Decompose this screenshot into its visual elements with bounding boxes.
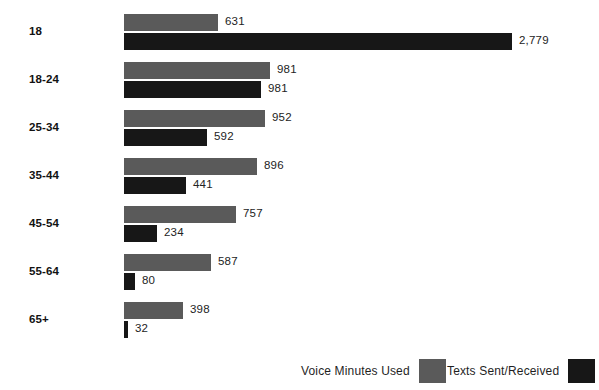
bar-texts[interactable]	[124, 225, 157, 242]
bar-line-texts: 592	[124, 129, 599, 146]
category-label: 45-54	[29, 217, 59, 229]
bar-row-group: 25-34952592	[0, 108, 599, 156]
bar-texts[interactable]	[124, 33, 512, 50]
bar-texts[interactable]	[124, 129, 207, 146]
bar-row-group: 186312,779	[0, 12, 599, 60]
bar-voice[interactable]	[124, 14, 218, 31]
bar-voice[interactable]	[124, 206, 236, 223]
bar-value-label-voice: 398	[190, 303, 210, 315]
bar-value-label-voice: 757	[243, 207, 263, 219]
bar-line-voice: 587	[124, 254, 599, 271]
bar-line-voice: 981	[124, 62, 599, 79]
category-label: 55-64	[29, 265, 59, 277]
bar-row-group: 45-54757234	[0, 204, 599, 252]
bar-voice[interactable]	[124, 62, 270, 79]
bar-voice[interactable]	[124, 110, 265, 127]
bar-line-texts: 2,779	[124, 33, 599, 50]
bar-voice[interactable]	[124, 254, 211, 271]
bar-value-label-voice: 981	[277, 63, 297, 75]
bar-line-voice: 952	[124, 110, 599, 127]
bar-line-texts: 234	[124, 225, 599, 242]
bar-row-group: 65+39832	[0, 300, 599, 348]
bar-line-voice: 757	[124, 206, 599, 223]
bar-value-label-texts: 981	[268, 82, 288, 94]
bar-value-label-texts: 32	[135, 322, 148, 334]
grouped-bar-chart: 186312,77918-2498198125-3495259235-44896…	[0, 0, 599, 390]
legend-label-voice-minutes-used: Voice Minutes Used	[301, 364, 410, 378]
bar-texts[interactable]	[124, 81, 261, 98]
bar-line-texts: 441	[124, 177, 599, 194]
legend-item-voice-minutes-used: Voice Minutes Used	[301, 358, 446, 384]
legend-label-texts-sent-received: Texts Sent/Received	[447, 364, 559, 378]
bar-line-texts: 32	[124, 321, 599, 338]
bar-line-voice: 398	[124, 302, 599, 319]
legend-swatch-texts-sent-received	[568, 359, 595, 383]
category-label: 18	[29, 25, 42, 37]
chart-legend: Voice Minutes Used Texts Sent/Received	[0, 352, 599, 390]
bar-value-label-texts: 592	[214, 130, 234, 142]
category-label: 25-34	[29, 121, 59, 133]
bar-value-label-texts: 441	[193, 178, 213, 190]
category-label: 18-24	[29, 73, 59, 85]
bar-voice[interactable]	[124, 302, 183, 319]
bar-value-label-voice: 587	[218, 255, 238, 267]
bar-texts[interactable]	[124, 321, 128, 338]
bar-row-group: 18-24981981	[0, 60, 599, 108]
bar-line-texts: 80	[124, 273, 599, 290]
category-label: 65+	[29, 313, 49, 325]
bar-value-label-voice: 896	[264, 159, 284, 171]
bar-line-texts: 981	[124, 81, 599, 98]
bar-row-group: 55-6458780	[0, 252, 599, 300]
bar-line-voice: 631	[124, 14, 599, 31]
bar-value-label-voice: 952	[272, 111, 292, 123]
bar-value-label-texts: 80	[142, 274, 155, 286]
bar-value-label-voice: 631	[225, 15, 245, 27]
bar-texts[interactable]	[124, 177, 186, 194]
bar-value-label-texts: 234	[164, 226, 184, 238]
bar-value-label-texts: 2,779	[519, 34, 549, 46]
bar-line-voice: 896	[124, 158, 599, 175]
category-label: 35-44	[29, 169, 59, 181]
bar-texts[interactable]	[124, 273, 135, 290]
legend-item-texts-sent-received: Texts Sent/Received	[447, 358, 595, 384]
legend-swatch-voice-minutes-used	[419, 359, 446, 383]
bar-row-group: 35-44896441	[0, 156, 599, 204]
chart-plot-area: 186312,77918-2498198125-3495259235-44896…	[0, 0, 599, 348]
bar-voice[interactable]	[124, 158, 257, 175]
